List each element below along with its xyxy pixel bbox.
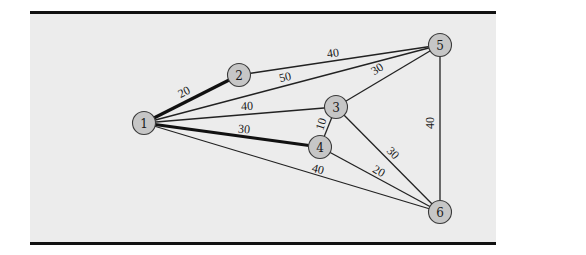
top-rule — [30, 11, 496, 14]
edge-weight-label: 30 — [237, 122, 250, 137]
edge-weight-label: 40 — [241, 99, 254, 114]
node-3: 3 — [325, 96, 348, 119]
network-figure: 2040504030301040302040 123456 — [0, 0, 586, 255]
bottom-rule — [30, 242, 496, 245]
node-label: 5 — [436, 39, 444, 53]
network-diagram: 2040504030301040302040 123456 — [0, 0, 586, 255]
node-1: 1 — [133, 112, 156, 135]
edge-weight-label: 40 — [423, 117, 437, 129]
node-label: 4 — [316, 141, 324, 155]
node-5: 5 — [429, 34, 452, 57]
node-label: 3 — [332, 101, 340, 115]
node-label: 1 — [140, 117, 148, 131]
node-4: 4 — [309, 136, 332, 159]
node-label: 6 — [436, 206, 444, 220]
node-2: 2 — [228, 64, 251, 87]
node-label: 2 — [235, 69, 243, 83]
edge-weight-label: 40 — [326, 45, 340, 61]
node-6: 6 — [429, 201, 452, 224]
